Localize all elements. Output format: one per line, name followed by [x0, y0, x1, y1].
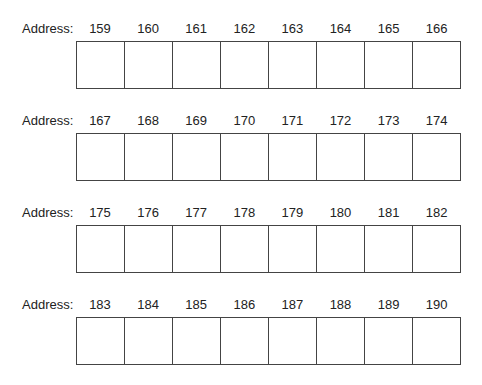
address-number: 189 — [365, 297, 413, 313]
address-number: 188 — [317, 297, 365, 313]
memory-cell — [269, 226, 317, 272]
address-label: Address: — [22, 113, 73, 129]
memory-row: Address:159160161162163164165166 — [0, 21, 482, 113]
address-number: 162 — [220, 21, 268, 37]
memory-cell — [413, 42, 460, 88]
memory-cell — [365, 42, 413, 88]
address-number: 176 — [124, 205, 172, 221]
memory-row: Address:167168169170171172173174 — [0, 113, 482, 205]
address-number: 170 — [220, 113, 268, 129]
memory-cell — [125, 42, 173, 88]
memory-cell — [173, 42, 221, 88]
memory-cell — [317, 226, 365, 272]
address-number: 163 — [268, 21, 316, 37]
memory-cell — [269, 42, 317, 88]
memory-cells — [76, 133, 461, 181]
memory-cell — [365, 134, 413, 180]
address-number: 183 — [76, 297, 124, 313]
memory-cell — [221, 226, 269, 272]
memory-cell — [413, 226, 460, 272]
memory-cell — [77, 134, 125, 180]
memory-cell — [77, 42, 125, 88]
address-number: 180 — [317, 205, 365, 221]
address-number: 184 — [124, 297, 172, 313]
address-number: 174 — [413, 113, 461, 129]
address-number: 161 — [172, 21, 220, 37]
memory-cell — [125, 318, 173, 364]
memory-cell — [173, 134, 221, 180]
address-number: 186 — [220, 297, 268, 313]
address-number: 172 — [317, 113, 365, 129]
address-number: 190 — [413, 297, 461, 313]
memory-cell — [125, 226, 173, 272]
memory-cell — [317, 42, 365, 88]
address-number: 181 — [365, 205, 413, 221]
address-number: 165 — [365, 21, 413, 37]
memory-cells — [76, 317, 461, 365]
memory-cell — [77, 226, 125, 272]
memory-cell — [413, 318, 460, 364]
address-number: 168 — [124, 113, 172, 129]
address-number: 167 — [76, 113, 124, 129]
address-number: 173 — [365, 113, 413, 129]
memory-cell — [269, 134, 317, 180]
memory-cell — [365, 226, 413, 272]
memory-row: Address:183184185186187188189190 — [0, 297, 482, 385]
address-label: Address: — [22, 205, 73, 221]
address-number: 178 — [220, 205, 268, 221]
memory-cell — [125, 134, 173, 180]
address-number: 187 — [268, 297, 316, 313]
address-number: 164 — [317, 21, 365, 37]
memory-cells — [76, 225, 461, 273]
memory-row: Address:175176177178179180181182 — [0, 205, 482, 297]
memory-cell — [173, 318, 221, 364]
memory-cell — [173, 226, 221, 272]
memory-cell — [317, 134, 365, 180]
address-number: 159 — [76, 21, 124, 37]
address-number: 175 — [76, 205, 124, 221]
memory-cell — [77, 318, 125, 364]
memory-cells — [76, 41, 461, 89]
address-label: Address: — [22, 297, 73, 313]
address-number: 185 — [172, 297, 220, 313]
memory-cell — [221, 318, 269, 364]
memory-cell — [413, 134, 460, 180]
address-number: 182 — [413, 205, 461, 221]
address-label: Address: — [22, 21, 73, 37]
address-number: 179 — [268, 205, 316, 221]
address-number: 171 — [268, 113, 316, 129]
memory-cell — [365, 318, 413, 364]
address-number: 169 — [172, 113, 220, 129]
memory-cell — [221, 134, 269, 180]
memory-cell — [221, 42, 269, 88]
memory-cell — [269, 318, 317, 364]
address-number: 177 — [172, 205, 220, 221]
address-number: 166 — [413, 21, 461, 37]
memory-cell — [317, 318, 365, 364]
address-number: 160 — [124, 21, 172, 37]
